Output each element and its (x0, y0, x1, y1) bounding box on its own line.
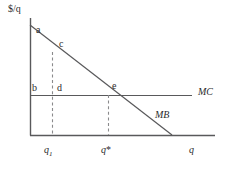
point-label-a: a (36, 25, 40, 35)
tick-label-qstar: q* (101, 145, 111, 155)
mb-curve (30, 25, 172, 135)
point-label-c: c (59, 39, 63, 49)
x-axis-label: q (189, 145, 194, 155)
tick-q1-subscript: 1 (49, 150, 53, 158)
mc-curve-label: MC (198, 87, 213, 97)
y-axis-label: $/q (8, 4, 21, 14)
point-label-d: d (57, 83, 62, 93)
point-label-b: b (32, 83, 37, 93)
tick-qstar-superscript: * (106, 144, 111, 155)
mb-curve-label: MB (155, 110, 169, 120)
mb-mc-diagram: $/q a c b d e MC MB q1 q* q (0, 0, 226, 174)
point-label-e: e (112, 81, 116, 91)
tick-label-q1: q1 (44, 145, 53, 158)
